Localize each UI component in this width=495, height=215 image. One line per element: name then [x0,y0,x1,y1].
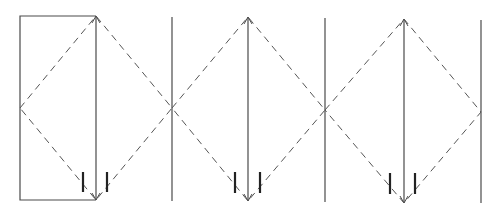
dashed-diamonds [20,16,481,203]
rectangle-outline [20,16,96,200]
dashed-diamond [325,19,481,203]
vertical-lines [92,16,481,203]
diagram-canvas [0,0,495,215]
bounding-rectangle [20,16,96,200]
tick-marks [83,172,415,194]
